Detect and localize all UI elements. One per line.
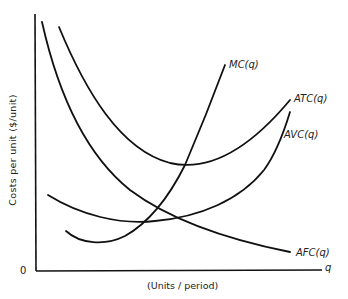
avc-curve	[48, 112, 290, 222]
mc-label: MC(q)	[229, 59, 259, 70]
x-axis	[36, 270, 322, 271]
x-axis-title: (Units / period)	[147, 280, 218, 291]
afc-label: AFC(q)	[296, 247, 330, 258]
atc-label: ATC(q)	[294, 93, 327, 104]
x-axis-q-label: q	[325, 262, 331, 273]
atc-curve	[59, 27, 290, 165]
y-axis-title: Costs per unit ($/unit)	[7, 94, 18, 205]
y-axis	[35, 14, 36, 271]
origin-label: 0	[20, 265, 26, 276]
avc-label: AVC(q)	[284, 129, 318, 140]
